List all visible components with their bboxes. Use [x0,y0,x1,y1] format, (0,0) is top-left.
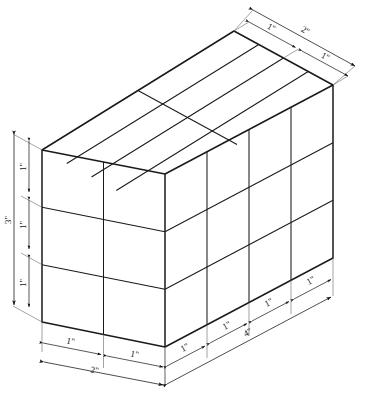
dimension-label-bottomright-inner-4: 1" [305,274,317,287]
dimension-label-height-inner-1: 1" [18,163,28,172]
dimension-label-bottomleft-outer: 2" [90,364,100,375]
dimension-label-height-inner-3: 1" [18,279,28,288]
block-faces [42,31,333,347]
dimension-label-height-outer: 3" [3,216,13,225]
dimension-left-vertical: 3" 1" 1" 1" [3,134,42,322]
drawing-canvas: 2" 1" 1" 3" 1" 1" 1" [0,0,372,418]
dimension-label-bottomleft-inner-2: 1" [130,348,140,359]
isometric-block-figure: 2" 1" 1" 3" 1" 1" 1" [0,0,372,418]
dimension-label-bottomright-inner-1: 1" [179,341,191,354]
dimension-label-top-outer: 2" [299,24,311,37]
dimension-label-bottomright-inner-2: 1" [221,319,233,332]
dimension-label-bottomleft-inner-1: 1" [66,335,76,346]
dimension-label-bottomright-inner-3: 1" [263,296,275,309]
dimension-label-height-inner-2: 1" [18,221,28,230]
dimension-label-width-outer: 4" [242,326,254,339]
